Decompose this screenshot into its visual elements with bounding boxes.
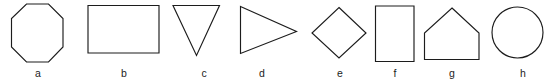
shape-diamond bbox=[312, 8, 366, 59]
shape-label-c: c bbox=[201, 67, 206, 79]
shape-triangle-down bbox=[173, 6, 220, 56]
shape-rectangle-landscape bbox=[88, 6, 159, 54]
shape-label-g: g bbox=[449, 67, 455, 79]
shape-octagon bbox=[12, 4, 64, 62]
shape-circle bbox=[492, 7, 543, 58]
shape-rectangle-portrait bbox=[376, 6, 415, 62]
shape-label-f: f bbox=[394, 67, 397, 79]
shape-pentagon-house bbox=[425, 8, 480, 60]
shape-label-d: d bbox=[259, 67, 265, 79]
shape-triangle-right bbox=[241, 7, 297, 54]
shape-group bbox=[12, 4, 544, 62]
shape-canvas bbox=[0, 0, 549, 83]
shape-label-b: b bbox=[121, 67, 127, 79]
shape-label-a: a bbox=[35, 67, 41, 79]
shape-figure: abcdefgh bbox=[0, 0, 549, 83]
shape-label-e: e bbox=[337, 67, 343, 79]
shape-label-h: h bbox=[520, 67, 526, 79]
